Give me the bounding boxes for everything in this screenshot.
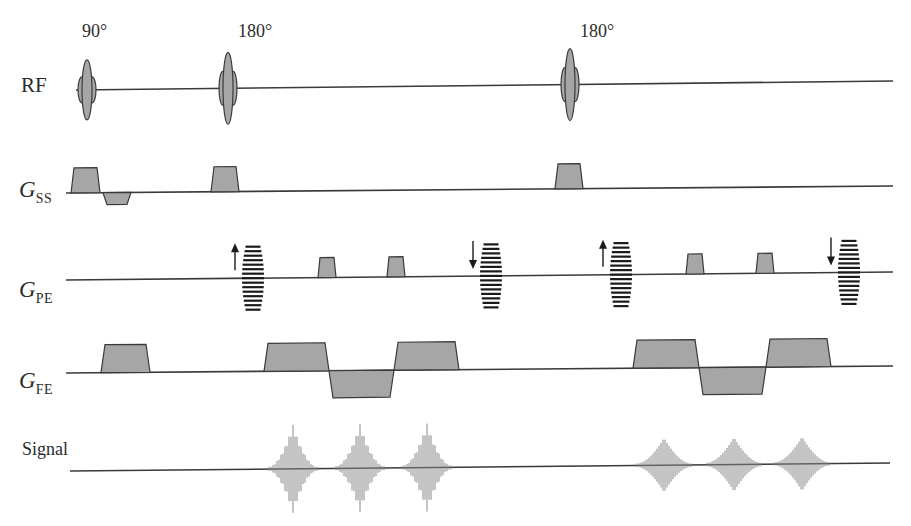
gfe-lobe-positive (101, 344, 150, 372)
signal-row (70, 424, 890, 513)
gpe-blip (318, 257, 336, 277)
rf-pulse-180 (561, 49, 579, 121)
rf-row (76, 49, 893, 125)
row-label-rf: RF (21, 75, 47, 96)
gfe-lobe-positive (633, 340, 699, 369)
row-label-gfe: GFE (19, 369, 53, 392)
gss-row (66, 164, 893, 205)
gss-lobe-negative (103, 192, 131, 204)
gpe-blip (686, 254, 704, 274)
gfe-row (66, 339, 893, 398)
phase-encode-table (610, 243, 632, 306)
signal-baseline (70, 463, 890, 471)
gss-subscript: SS (36, 191, 53, 206)
gpe-blip (756, 253, 774, 273)
row-label-gpe: GPE (19, 278, 53, 301)
gfe-lobe-positive (394, 342, 459, 371)
gfe-lobe-positive (766, 339, 831, 368)
gpe-subscript: PE (36, 291, 53, 306)
gfe-lobe-negative (699, 367, 766, 395)
gpe-symbol: G (19, 277, 36, 302)
pulse-sequence-diagram (0, 0, 911, 526)
gfe-subscript: FE (36, 382, 53, 397)
rf-baseline (76, 81, 893, 90)
gfe-lobe-negative (329, 370, 394, 398)
gss-lobe-positive (211, 167, 239, 192)
gpe-row (66, 237, 893, 309)
arrow-head (827, 256, 835, 265)
phase-encode-table (838, 241, 860, 304)
row-label-gss: GSS (19, 178, 52, 201)
arrow-up-icon (231, 243, 239, 270)
arrow-down-icon (469, 241, 477, 269)
arrow-down-icon (827, 237, 835, 265)
flip-angle-180-second: 180° (580, 21, 614, 42)
rf-main-lobe (82, 60, 92, 120)
rf-main-lobe (223, 52, 233, 124)
gfe-symbol: G (19, 368, 36, 393)
flip-angle-90: 90° (82, 21, 107, 42)
gss-symbol: G (19, 177, 36, 202)
rf-pulse-90 (78, 60, 96, 120)
flip-angle-180-first: 180° (238, 21, 272, 42)
arrow-head (231, 243, 239, 252)
signal-label-text: Signal (22, 439, 68, 459)
phase-encode-table (242, 247, 264, 310)
gss-baseline (66, 186, 893, 193)
rf-label-text: RF (21, 73, 47, 97)
gss-lobe-positive (71, 168, 100, 193)
gpe-blip (387, 257, 405, 277)
gfe-lobe-positive (264, 343, 329, 372)
rf-pulse-180 (219, 52, 237, 124)
arrow-head (599, 240, 607, 249)
rf-main-lobe (565, 49, 575, 121)
arrow-up-icon (599, 240, 607, 267)
gss-lobe-positive (555, 164, 583, 189)
arrow-head (469, 260, 477, 269)
phase-encode-table (480, 244, 502, 307)
row-label-signal: Signal (22, 440, 68, 458)
